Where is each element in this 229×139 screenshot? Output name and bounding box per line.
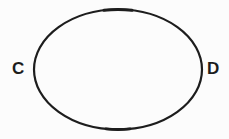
pen-stroke-top xyxy=(104,10,132,11)
pen-stroke-bottom xyxy=(106,129,130,130)
point-label-c: C xyxy=(6,60,31,78)
ellipse-diagram xyxy=(0,0,229,139)
ellipse-outline xyxy=(34,10,202,130)
point-label-d: D xyxy=(201,60,226,78)
figure-canvas: C D xyxy=(0,0,229,139)
